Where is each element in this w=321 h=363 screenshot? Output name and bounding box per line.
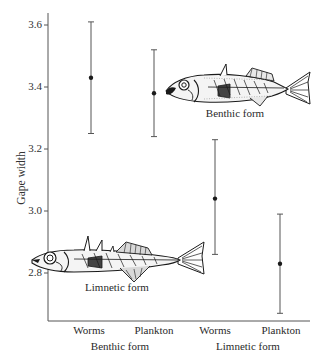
limnetic-fish-illustration xyxy=(32,236,204,282)
y-tick-label-3.4: 3.4 xyxy=(12,80,42,92)
y-tick-label-3.0: 3.0 xyxy=(12,204,42,216)
error-bar-limnetic-form-worms xyxy=(212,140,218,255)
mean-point xyxy=(213,196,217,200)
mean-point xyxy=(89,76,93,80)
x-category-benthic-plankton: Plankton xyxy=(134,324,173,336)
y-tick-label-3.6: 3.6 xyxy=(12,18,42,30)
error-bar-benthic-form-worms xyxy=(88,22,94,134)
x-category-limnetic-worms: Worms xyxy=(199,324,231,336)
x-category-benthic-worms: Worms xyxy=(73,324,105,336)
error-bar-limnetic-form-plankton xyxy=(277,214,283,313)
mean-point xyxy=(278,262,282,266)
y-axis-ticks xyxy=(44,25,48,273)
limnetic-fish-caption: Limnetic form xyxy=(85,281,149,293)
benthic-fish-illustration xyxy=(166,64,310,106)
y-tick-label-3.2: 3.2 xyxy=(12,142,42,154)
mean-point xyxy=(152,91,156,95)
x-category-limnetic-plankton: Plankton xyxy=(261,324,300,336)
benthic-fish-caption: Benthic form xyxy=(206,107,264,119)
x-group-limnetic-form: Limnetic form xyxy=(216,340,280,352)
error-bar-benthic-form-plankton xyxy=(151,50,157,137)
x-group-benthic-form: Benthic form xyxy=(91,340,149,352)
chart-plot-area xyxy=(0,0,321,363)
y-tick-label-2.8: 2.8 xyxy=(12,266,42,278)
